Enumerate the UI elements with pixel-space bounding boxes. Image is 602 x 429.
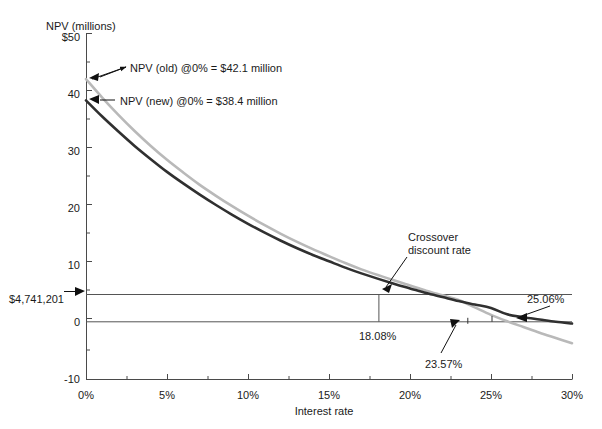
npv-old-leader [100,67,126,77]
chart-plot-area [0,0,602,429]
axis-lines [86,33,572,380]
callout-arrowheads [75,73,527,328]
irr-old-leader [441,325,456,353]
series-line-npv-new [86,100,572,323]
npv-profile-chart: NPV (millions) $50 40 30 20 10 0 -10 $4,… [0,0,602,429]
irr-point-markers [468,316,492,324]
npv-old-arrowhead [89,73,99,81]
npv-new-arrowhead [89,95,99,104]
irr-new-arrowhead [516,313,527,322]
x-major-ticks [87,374,573,380]
series-line-npv-old [86,79,572,343]
